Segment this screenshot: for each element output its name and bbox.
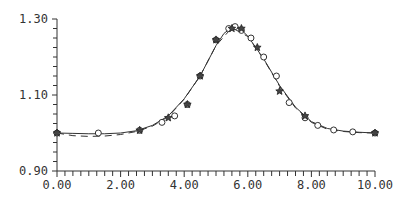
circle-marker	[286, 100, 292, 106]
circle-marker	[248, 35, 254, 41]
x-tick-label: 6.00	[233, 178, 262, 192]
circle-marker	[159, 119, 165, 125]
circle-marker	[350, 129, 356, 135]
circle-marker	[331, 127, 337, 133]
line-chart: 0.901.101.300.002.004.006.008.0010.00	[0, 0, 407, 199]
star-marker	[254, 44, 262, 51]
y-tick-label: 1.10	[19, 88, 48, 102]
dashed-line	[57, 28, 375, 137]
y-tick-label: 1.30	[19, 12, 48, 26]
y-tick-label: 0.90	[19, 164, 48, 178]
star-marker	[165, 114, 173, 121]
circle-marker	[261, 54, 267, 60]
circle-marker	[172, 113, 178, 119]
x-tick-label: 8.00	[297, 178, 326, 192]
tick-labels: 0.901.101.300.002.004.006.008.0010.00	[19, 12, 393, 192]
circle-marker	[315, 122, 321, 128]
circle-marker	[273, 73, 279, 79]
x-tick-label: 4.00	[170, 178, 199, 192]
series	[53, 24, 379, 137]
x-tick-label: 0.00	[43, 178, 72, 192]
x-tick-label: 10.00	[357, 178, 393, 192]
x-tick-label: 2.00	[106, 178, 135, 192]
circle-marker	[95, 130, 101, 136]
